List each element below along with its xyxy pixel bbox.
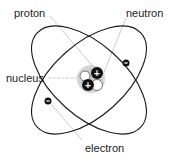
proton-1-charge: + (94, 68, 100, 79)
proton-2-charge: + (85, 80, 91, 91)
neutron-leader (100, 18, 126, 82)
nucleus-label: nucleus (6, 73, 44, 84)
electron-right (123, 60, 130, 67)
electron-left (45, 98, 52, 105)
proton-label: proton (14, 8, 45, 19)
electron-label: electron (85, 143, 124, 154)
nucleus: + + (77, 65, 105, 93)
neutron-label: neutron (126, 8, 163, 19)
proton-leader (50, 16, 96, 70)
